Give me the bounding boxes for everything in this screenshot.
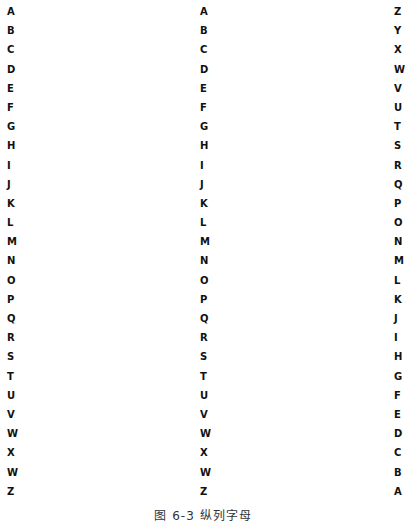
letter-item: G	[200, 117, 211, 136]
letter-item: J	[200, 175, 211, 194]
letter-item: B	[394, 463, 405, 482]
letter-item: V	[394, 79, 405, 98]
letter-item: F	[394, 386, 405, 405]
letter-item: P	[394, 194, 405, 213]
letter-item: S	[200, 347, 211, 366]
letter-item: C	[394, 443, 405, 462]
letter-item: T	[7, 367, 18, 386]
letter-item: Z	[200, 482, 211, 501]
letter-item: C	[7, 40, 18, 59]
letter-item: V	[7, 405, 18, 424]
letter-item: Y	[394, 21, 405, 40]
letter-item: X	[394, 40, 405, 59]
letter-item: O	[7, 271, 18, 290]
letter-item: H	[7, 136, 18, 155]
letter-item: A	[200, 2, 211, 21]
letter-item: K	[200, 194, 211, 213]
letter-item: G	[7, 117, 18, 136]
letter-item: L	[7, 213, 18, 232]
letter-item: B	[7, 21, 18, 40]
letter-item: G	[394, 367, 405, 386]
letter-item: Z	[394, 2, 405, 21]
letter-item: W	[200, 463, 211, 482]
letter-item: T	[200, 367, 211, 386]
letter-item: M	[200, 232, 211, 251]
letter-item: C	[200, 40, 211, 59]
letter-item: O	[200, 271, 211, 290]
letter-item: I	[7, 156, 18, 175]
letter-item: V	[200, 405, 211, 424]
letter-column-middle: ABCDEFGHIJKLMNOPQRSTUVWXWZ	[200, 2, 211, 501]
letter-item: A	[394, 482, 405, 501]
letter-item: K	[7, 194, 18, 213]
letter-item: U	[200, 386, 211, 405]
letter-item: E	[394, 405, 405, 424]
letter-column-left: ABCDEFGHIJKLMNOPQRSTUVWXWZ	[7, 2, 18, 501]
letter-item: R	[200, 328, 211, 347]
letter-item: A	[7, 2, 18, 21]
letter-item: W	[7, 424, 18, 443]
letter-item: X	[7, 443, 18, 462]
letter-item: Z	[7, 482, 18, 501]
letter-item: Q	[7, 309, 18, 328]
figure-caption: 图 6-3 纵列字母	[0, 506, 406, 523]
letter-item: D	[394, 424, 405, 443]
letter-item: R	[7, 328, 18, 347]
letter-item: L	[200, 213, 211, 232]
letter-item: E	[200, 79, 211, 98]
letter-item: O	[394, 213, 405, 232]
letter-item: J	[7, 175, 18, 194]
letter-item: B	[200, 21, 211, 40]
letter-item: J	[394, 309, 405, 328]
letter-item: S	[394, 136, 405, 155]
letter-item: N	[394, 232, 405, 251]
letter-item: W	[394, 60, 405, 79]
letter-item: N	[200, 251, 211, 270]
letter-item: M	[394, 251, 405, 270]
letter-item: I	[394, 328, 405, 347]
letter-item: W	[200, 424, 211, 443]
letter-item: S	[7, 347, 18, 366]
letter-item: M	[7, 232, 18, 251]
letter-item: N	[7, 251, 18, 270]
letter-item: W	[7, 463, 18, 482]
letter-item: F	[200, 98, 211, 117]
letter-item: D	[7, 60, 18, 79]
letter-item: H	[200, 136, 211, 155]
letter-item: P	[7, 290, 18, 309]
letter-item: Q	[394, 175, 405, 194]
letter-item: P	[200, 290, 211, 309]
letter-item: E	[7, 79, 18, 98]
letter-item: U	[7, 386, 18, 405]
letter-item: R	[394, 156, 405, 175]
letter-item: H	[394, 347, 405, 366]
letter-item: T	[394, 117, 405, 136]
letter-item: L	[394, 271, 405, 290]
letter-item: D	[200, 60, 211, 79]
letter-item: Q	[200, 309, 211, 328]
letter-item: F	[7, 98, 18, 117]
letter-item: U	[394, 98, 405, 117]
letter-item: K	[394, 290, 405, 309]
letter-item: I	[200, 156, 211, 175]
letter-item: X	[200, 443, 211, 462]
letter-column-right: ZYXWVUTSRQPONMLKJIHGFEDCBA	[394, 2, 405, 501]
